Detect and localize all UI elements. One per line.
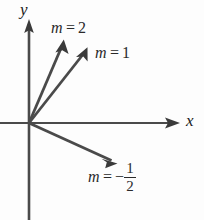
slope-negative-half-ray-line xyxy=(29,123,112,161)
slope-2-equals: = xyxy=(66,19,75,36)
slope-negative-half-label: m=− 1 2 xyxy=(88,162,136,196)
slope-diagram: y x m=2 m=1 m=− 1 2 xyxy=(0,0,204,220)
slope-2-ray-arrowhead xyxy=(55,40,68,55)
slope-1-ray-line xyxy=(29,53,85,124)
fraction-denominator: 2 xyxy=(124,179,136,194)
slope-negative-half-minus-sign: − xyxy=(115,168,124,185)
y-axis-label: y xyxy=(20,1,28,18)
slope-1-variable: m xyxy=(95,44,107,61)
slope-2-value: 2 xyxy=(78,19,86,36)
slope-negative-half-fraction: 1 2 xyxy=(124,161,136,195)
slope-negative-half-equals: = xyxy=(103,168,112,185)
slope-2-ray-line xyxy=(29,46,62,124)
slope-2-label: m=2 xyxy=(51,20,86,36)
x-axis-label: x xyxy=(186,112,194,129)
slope-1-value: 1 xyxy=(122,44,130,61)
slope-2-variable: m xyxy=(51,19,63,36)
slope-negative-half-variable: m xyxy=(88,168,100,185)
slope-1-equals: = xyxy=(110,44,119,61)
slope-1-label: m=1 xyxy=(95,45,130,61)
fraction-numerator: 1 xyxy=(124,161,136,176)
